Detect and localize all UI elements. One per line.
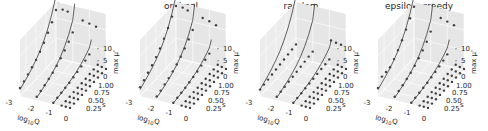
data-point xyxy=(426,41,428,43)
data-point xyxy=(317,92,319,94)
data-point xyxy=(430,76,432,78)
data-point xyxy=(159,47,161,49)
z-tick-label: 10 xyxy=(343,45,352,53)
data-point xyxy=(143,79,145,81)
data-point xyxy=(333,75,335,77)
data-point xyxy=(27,73,29,75)
data-point xyxy=(259,88,261,90)
data-point xyxy=(402,84,404,86)
data-point xyxy=(63,49,65,51)
data-point xyxy=(68,82,70,84)
data-point xyxy=(217,70,219,72)
data-point xyxy=(180,92,182,94)
data-point xyxy=(304,87,306,89)
data-point xyxy=(287,53,289,55)
x-tick-label: -2 xyxy=(28,105,35,113)
data-point xyxy=(439,94,441,96)
data-point xyxy=(427,96,429,98)
data-point xyxy=(301,104,303,106)
data-point xyxy=(208,52,210,54)
data-point xyxy=(84,59,86,61)
data-point xyxy=(427,101,429,103)
data-point xyxy=(324,63,326,65)
data-point xyxy=(263,83,265,85)
z-tick-label: 5 xyxy=(103,57,107,65)
data-point xyxy=(317,87,319,89)
data-point xyxy=(337,64,339,66)
data-point xyxy=(292,102,294,104)
data-point xyxy=(168,77,170,79)
z-tick-label: 5 xyxy=(223,57,227,65)
s-axis-label: s xyxy=(342,101,346,109)
data-point xyxy=(439,82,441,84)
s-tick-label: 0.25 xyxy=(206,105,222,113)
data-point xyxy=(77,87,79,89)
data-point xyxy=(139,86,141,88)
data-point xyxy=(69,96,71,98)
data-point xyxy=(453,24,455,26)
data-point xyxy=(175,5,177,7)
data-point xyxy=(172,102,174,104)
data-point xyxy=(184,87,186,89)
data-point xyxy=(65,100,67,102)
data-point xyxy=(455,70,457,72)
data-point xyxy=(35,59,37,61)
data-point xyxy=(193,91,195,93)
data-point xyxy=(381,75,383,77)
data-point xyxy=(413,6,415,8)
plot-area: -3-2-10log10Q0.250.500.751.00s0510max μ' xyxy=(358,0,480,131)
s-tick-label: 0.75 xyxy=(452,89,468,97)
data-point xyxy=(215,24,217,26)
data-point xyxy=(72,31,74,33)
s-axis-label: s xyxy=(222,101,226,109)
data-point xyxy=(423,106,425,108)
s-tick-label: 0.75 xyxy=(94,89,110,97)
x-axis-label: log10Q xyxy=(16,114,40,128)
data-point xyxy=(267,78,269,80)
data-point xyxy=(56,97,58,99)
data-point xyxy=(423,100,425,102)
data-point xyxy=(435,92,437,94)
data-point xyxy=(442,59,444,61)
data-point xyxy=(439,88,441,90)
s-tick-label: 0.75 xyxy=(334,89,350,97)
data-point xyxy=(443,89,445,91)
data-point xyxy=(61,104,63,106)
data-point xyxy=(300,66,302,68)
data-point xyxy=(208,20,210,22)
data-point xyxy=(201,82,203,84)
data-point xyxy=(52,102,54,104)
data-point xyxy=(446,53,448,55)
data-point xyxy=(200,64,202,66)
data-point xyxy=(209,79,211,81)
data-point xyxy=(283,58,285,60)
data-point xyxy=(418,57,420,59)
subplot-ts: ts-3-2-10log10Q0.250.500.751.00s0510max … xyxy=(0,0,122,131)
data-point xyxy=(405,28,407,30)
data-point xyxy=(309,96,311,98)
data-point xyxy=(97,70,99,72)
data-point xyxy=(325,89,327,91)
data-point xyxy=(19,87,21,89)
data-point xyxy=(313,97,315,99)
data-point xyxy=(209,73,211,75)
z-tick-label: 5 xyxy=(461,57,465,65)
data-point xyxy=(31,66,33,68)
data-point xyxy=(213,68,215,70)
data-point xyxy=(77,92,79,94)
z-axis-label: max μ' xyxy=(470,50,478,74)
data-point xyxy=(280,91,282,93)
data-point xyxy=(414,97,416,99)
data-point xyxy=(279,63,281,65)
data-point xyxy=(451,75,453,77)
data-point xyxy=(60,57,62,59)
data-point xyxy=(95,26,97,28)
data-point xyxy=(88,22,90,24)
data-point xyxy=(204,59,206,61)
data-point xyxy=(309,101,311,103)
subplot-epsilon-greedy: epsilon_greedy-3-2-10log10Q0.250.500.751… xyxy=(358,0,480,131)
data-point xyxy=(205,84,207,86)
data-point xyxy=(147,72,149,74)
data-point xyxy=(296,97,298,99)
data-point xyxy=(313,102,315,104)
